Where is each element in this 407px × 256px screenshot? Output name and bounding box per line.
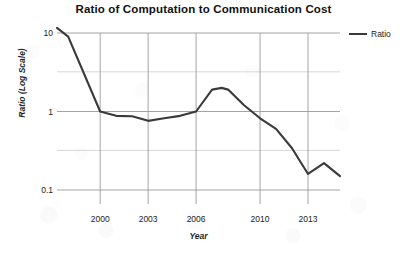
y-tick-label-1: 1: [7, 107, 53, 117]
x-tick-label-0: 2000: [91, 214, 110, 224]
x-axis-tick-marks: [100, 190, 308, 204]
legend: Ratio: [349, 29, 391, 39]
chart-title: Ratio of Computation to Communication Co…: [0, 3, 407, 15]
y-axis-tick-labels: 1010.1: [0, 0, 53, 256]
y-tick-label-2: 0.1: [7, 185, 53, 195]
x-axis-title: Year: [57, 231, 340, 241]
data-series-group: [57, 28, 340, 176]
x-tick-label-4: 2013: [299, 214, 318, 224]
x-tick-label-2: 2006: [187, 214, 206, 224]
legend-line-swatch: [349, 33, 367, 35]
chart-figure: Ratio of Computation to Communication Co…: [0, 0, 407, 256]
y-tick-label-0: 10: [7, 28, 53, 38]
legend-label-ratio: Ratio: [371, 29, 391, 39]
x-tick-label-3: 2010: [251, 214, 270, 224]
x-tick-label-1: 2003: [139, 214, 158, 224]
